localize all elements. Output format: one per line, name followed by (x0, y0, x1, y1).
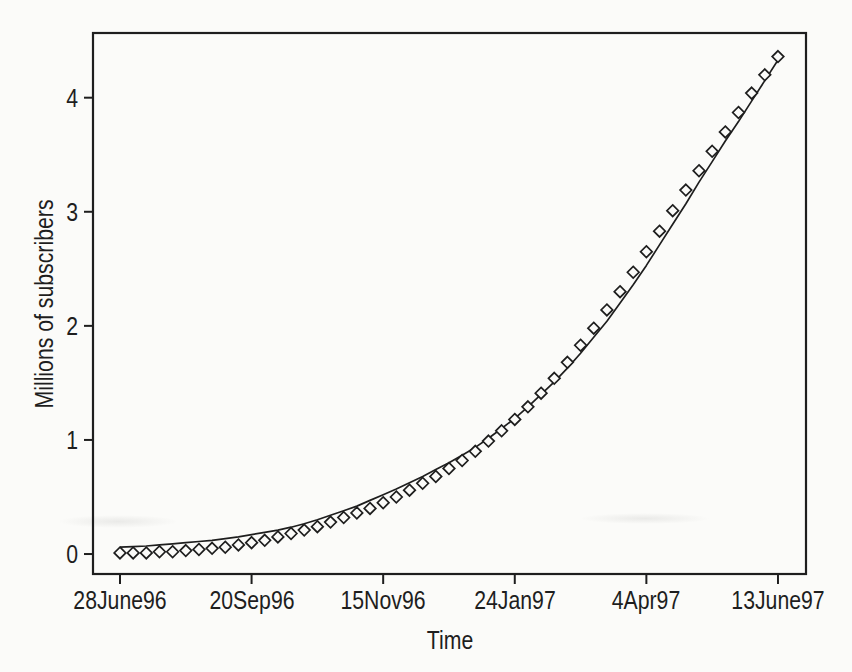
data-point-marker (483, 435, 495, 447)
data-point-marker (114, 547, 126, 559)
data-point-marker (351, 507, 363, 519)
chart-plot-area (0, 0, 852, 672)
data-point-marker (206, 543, 218, 555)
data-point-marker (272, 531, 284, 543)
data-point-marker (746, 87, 758, 99)
data-point-marker (680, 184, 692, 196)
x-tick-label: 4Apr97 (578, 586, 714, 614)
y-tick-label: 4 (39, 83, 78, 113)
data-point-marker (377, 497, 389, 509)
data-point-marker (667, 205, 679, 217)
data-point-marker (140, 547, 152, 559)
data-point-marker (285, 528, 297, 540)
data-point-marker (614, 286, 626, 298)
x-axis-title: Time (365, 626, 535, 654)
data-point-marker (391, 491, 403, 503)
data-point-marker (298, 524, 310, 536)
y-axis-title: Millions of subscribers (30, 199, 58, 408)
data-point-marker (456, 455, 468, 467)
data-point-marker (259, 535, 271, 547)
data-point-marker (562, 357, 574, 369)
x-tick-label: 28June96 (52, 586, 188, 614)
data-point-marker (180, 545, 192, 557)
x-tick-label: 13June97 (710, 586, 846, 614)
data-point-marker (364, 503, 376, 515)
data-point-marker (469, 446, 481, 458)
x-tick-label: 24Jan97 (447, 586, 583, 614)
data-point-marker (404, 484, 416, 496)
data-point-marker (772, 51, 784, 63)
data-point-marker (759, 69, 771, 81)
y-tick-label: 1 (39, 425, 78, 455)
plot-frame (93, 33, 806, 574)
data-point-marker (193, 544, 205, 556)
data-point-marker (601, 304, 613, 316)
data-point-marker (627, 266, 639, 278)
data-point-marker (654, 225, 666, 237)
data-point-marker (325, 516, 337, 528)
data-point-marker (167, 546, 179, 558)
data-point-marker (496, 425, 508, 437)
data-point-marker (338, 512, 350, 524)
data-point-marker (641, 246, 653, 258)
data-point-marker (246, 537, 258, 549)
data-point-marker (233, 539, 245, 551)
x-tick-label: 20Sep96 (184, 586, 320, 614)
data-point-marker (219, 541, 231, 553)
data-point-marker (548, 373, 560, 385)
data-point-marker (154, 546, 166, 558)
subscriber-growth-figure: 01234 28June9620Sep9615Nov9624Jan974Apr9… (0, 0, 852, 672)
data-point-marker (312, 521, 324, 533)
y-tick-label: 0 (39, 539, 78, 569)
data-point-marker (127, 547, 139, 559)
x-tick-label: 15Nov96 (315, 586, 451, 614)
